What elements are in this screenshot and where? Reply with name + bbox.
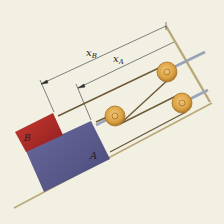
pulley-top bbox=[157, 62, 177, 82]
label-xa: xA bbox=[113, 53, 124, 66]
pulley-right bbox=[172, 93, 192, 113]
pulley-diagram: xB xA A B bbox=[0, 0, 224, 224]
pulley-left bbox=[105, 106, 125, 126]
label-block-b: B bbox=[23, 133, 31, 143]
label-block-a: A bbox=[89, 150, 97, 161]
label-xb: xB bbox=[86, 47, 97, 60]
